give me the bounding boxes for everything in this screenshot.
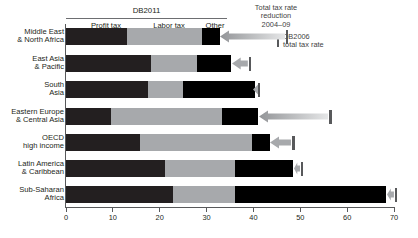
row-label-line2: & Central Asia (16, 115, 64, 124)
x-axis-tick-60 (347, 208, 348, 212)
row-label-6: Latin America& Caribbean (0, 160, 64, 178)
row-label-1: Middle East& North Africa (0, 28, 64, 46)
reduction-arrow-row4 (259, 108, 329, 125)
x-axis-tick-label-40: 40 (241, 213, 265, 223)
bar-segment-labor-tax-row2 (151, 55, 197, 72)
bar-segment-other-row2 (197, 55, 232, 72)
annotation-db2006-label: DB2006 total tax rate (283, 33, 363, 53)
row-label-2: East Asia& Pacific (0, 55, 64, 73)
row-label-5: OECDhigh income (0, 134, 64, 152)
x-axis-tick-label-70: 70 (382, 213, 406, 223)
row-label-line2: Africa (45, 193, 64, 202)
group-header-rule-right (172, 18, 227, 19)
row-label-line2: & Pacific (34, 62, 64, 71)
x-axis-line (65, 207, 395, 208)
x-axis-tick-20 (159, 208, 160, 212)
bar-segment-labor-tax-row3 (148, 81, 182, 98)
row-label-line2: & Caribbean (22, 167, 64, 176)
reduction-arrow-row7 (387, 186, 394, 203)
reduction-arrow-row1 (220, 28, 285, 45)
bar-segment-other-row3 (183, 81, 255, 98)
x-axis-tick-50 (300, 208, 301, 212)
db2006-marker-row5 (292, 136, 294, 150)
bar-segment-other-row6 (235, 160, 294, 177)
bar-segment-labor-tax-row4 (111, 108, 222, 125)
x-axis-tick-label-60: 60 (335, 213, 359, 223)
x-axis-tick-label-0: 0 (54, 213, 78, 223)
x-axis-tick-30 (206, 208, 207, 212)
x-axis-tick-label-30: 30 (195, 213, 219, 223)
group-header-label: DB2011 (66, 6, 227, 16)
row-label-line2: & North Africa (17, 35, 64, 44)
bar-segment-other-row1 (202, 28, 220, 45)
x-axis-tick-label-10: 10 (101, 213, 125, 223)
bar-segment-other-row4 (222, 108, 259, 125)
bar-segment-profit-tax-row6 (66, 160, 165, 177)
bar-segment-other-row7 (235, 186, 387, 203)
db2006-marker-row4 (329, 110, 331, 124)
db2006-marker-row1 (286, 30, 288, 44)
x-axis-tick-label-50: 50 (288, 213, 312, 223)
row-label-line2: Asia (49, 88, 64, 97)
reduction-arrow-row6 (294, 160, 300, 177)
total-tax-rate-chart: DB2011Profit taxLabor taxOtherTotal tax … (0, 0, 418, 238)
db2006-marker-row7 (395, 188, 397, 202)
x-axis-tick-label-20: 20 (148, 213, 172, 223)
bar-segment-other-row5 (252, 134, 269, 151)
bar-segment-profit-tax-row3 (66, 81, 148, 98)
row-label-line2: high income (23, 141, 64, 150)
row-label-7: Sub-SaharanAfrica (0, 186, 64, 204)
row-label-4: Eastern Europe& Central Asia (0, 108, 64, 126)
bar-segment-labor-tax-row6 (165, 160, 235, 177)
bar-segment-profit-tax-row1 (66, 28, 127, 45)
bar-segment-labor-tax-row1 (127, 28, 202, 45)
reduction-arrow-row3 (253, 81, 259, 98)
x-axis-tick-10 (112, 208, 113, 212)
x-axis-tick-70 (394, 208, 395, 212)
x-axis-tick-0 (66, 208, 67, 212)
bar-segment-profit-tax-row4 (66, 108, 111, 125)
bar-segment-labor-tax-row7 (173, 186, 234, 203)
reduction-arrow-row5 (270, 134, 291, 151)
db2006-marker-row6 (301, 162, 303, 176)
bar-segment-profit-tax-row5 (66, 134, 140, 151)
x-axis-tick-40 (253, 208, 254, 212)
db2006-marker-row2 (249, 57, 251, 71)
reduction-arrow-row2 (232, 55, 248, 72)
bar-segment-profit-tax-row7 (66, 186, 173, 203)
row-label-3: SouthAsia (0, 81, 64, 99)
bar-segment-labor-tax-row5 (140, 134, 252, 151)
bar-segment-profit-tax-row2 (66, 55, 151, 72)
